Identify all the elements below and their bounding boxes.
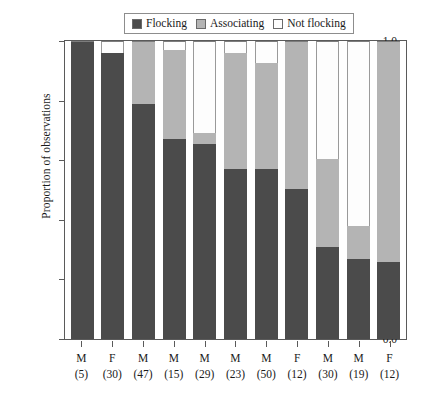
x-axis-label: M(5): [66, 350, 97, 382]
stacked-bar[interactable]: [255, 41, 278, 339]
bar-segment-flocking: [377, 262, 400, 339]
bar-segment-flocking: [255, 169, 278, 339]
bar-segment-associating: [193, 133, 216, 143]
x-label-count: (50): [251, 366, 282, 382]
x-label-sex: M: [313, 350, 344, 366]
stacked-bar[interactable]: [163, 41, 186, 339]
bar-segment-not-flocking: [347, 41, 370, 226]
bar-segment-not-flocking: [163, 41, 186, 50]
x-label-count: (30): [97, 366, 128, 382]
x-axis-label: F(12): [282, 350, 313, 382]
x-tick-mark: [143, 341, 144, 347]
legend-swatch-associating: [196, 19, 206, 29]
bar-slot: [251, 41, 282, 339]
x-axis-label: M(50): [251, 350, 282, 382]
x-label-sex: F: [282, 350, 313, 366]
bar-slot: [343, 41, 374, 339]
bar-segment-associating: [316, 159, 339, 247]
bar-slot: [128, 41, 159, 339]
x-label-sex: M: [220, 350, 251, 366]
bar-slot: [312, 41, 343, 339]
bar-segment-flocking: [132, 104, 155, 339]
x-tick-mark: [359, 341, 360, 347]
stacked-bar[interactable]: [377, 41, 400, 339]
x-tick-mark: [174, 341, 175, 347]
legend-item-associating: Associating: [196, 18, 264, 30]
x-tick-mark: [205, 341, 206, 347]
x-tick-mark: [328, 341, 329, 347]
x-label-sex: F: [374, 350, 405, 366]
bar-slot: [159, 41, 190, 339]
bar-slot: [281, 41, 312, 339]
x-label-count: (12): [282, 366, 313, 382]
bar-series-container: [65, 41, 406, 339]
x-tick-slot: [189, 341, 220, 347]
plot-area: 1.00.80.60.40.20.0: [64, 40, 407, 340]
x-tick-mark: [112, 341, 113, 347]
stacked-bar[interactable]: [285, 41, 308, 339]
stacked-bar[interactable]: [193, 41, 216, 339]
x-tick-slot: [282, 341, 313, 347]
stacked-bar[interactable]: [347, 41, 370, 339]
stacked-bar[interactable]: [224, 41, 247, 339]
x-label-sex: M: [128, 350, 159, 366]
bar-segment-not-flocking: [224, 41, 247, 53]
x-tick-slot: [313, 341, 344, 347]
x-label-count: (30): [313, 366, 344, 382]
bar-segment-associating: [285, 41, 308, 189]
x-axis-label: M(29): [189, 350, 220, 382]
legend-swatch-flocking: [132, 19, 142, 29]
stacked-bar[interactable]: [71, 41, 94, 339]
legend-swatch-not-flocking: [273, 19, 283, 29]
x-axis-ticks: [64, 341, 407, 347]
bar-segment-flocking: [224, 169, 247, 339]
legend-label-associating: Associating: [210, 18, 264, 30]
stacked-bar[interactable]: [132, 41, 155, 339]
x-axis-label: F(12): [374, 350, 405, 382]
x-label-count: (29): [189, 366, 220, 382]
x-label-sex: M: [251, 350, 282, 366]
bar-segment-associating: [255, 63, 278, 169]
bar-segment-flocking: [347, 259, 370, 339]
x-label-count: (23): [220, 366, 251, 382]
bar-segment-flocking: [163, 139, 186, 339]
x-label-count: (5): [66, 366, 97, 382]
x-tick-slot: [374, 341, 405, 347]
x-tick-slot: [220, 341, 251, 347]
bar-segment-flocking: [193, 144, 216, 339]
bar-slot: [373, 41, 404, 339]
x-tick-slot: [128, 341, 159, 347]
bar-slot: [98, 41, 129, 339]
stacked-bar-chart-figure: Flocking Associating Not flocking Propor…: [0, 0, 425, 394]
bar-segment-associating: [224, 53, 247, 169]
x-tick-slot: [251, 341, 282, 347]
legend-item-not-flocking: Not flocking: [273, 18, 345, 30]
x-axis-label: M(47): [128, 350, 159, 382]
legend-label-flocking: Flocking: [146, 18, 187, 30]
legend-item-flocking: Flocking: [132, 18, 187, 30]
bar-segment-not-flocking: [193, 41, 216, 133]
stacked-bar[interactable]: [101, 41, 124, 339]
bar-slot: [67, 41, 98, 339]
x-label-sex: M: [343, 350, 374, 366]
bar-segment-associating: [347, 226, 370, 259]
x-label-sex: F: [97, 350, 128, 366]
x-label-sex: M: [158, 350, 189, 366]
bar-segment-flocking: [101, 53, 124, 339]
x-tick-slot: [158, 341, 189, 347]
stacked-bar[interactable]: [316, 41, 339, 339]
x-label-count: (19): [343, 366, 374, 382]
y-axis-title: Proportion of observations: [40, 31, 52, 281]
legend-label-not-flocking: Not flocking: [287, 18, 345, 30]
x-label-count: (12): [374, 366, 405, 382]
x-tick-mark: [266, 341, 267, 347]
bar-segment-flocking: [285, 189, 308, 339]
x-axis-label: M(15): [158, 350, 189, 382]
bar-slot: [220, 41, 251, 339]
bar-segment-associating: [163, 50, 186, 139]
x-axis-label: M(30): [313, 350, 344, 382]
x-tick-slot: [343, 341, 374, 347]
x-axis-label: M(23): [220, 350, 251, 382]
x-label-sex: M: [189, 350, 220, 366]
bar-segment-not-flocking: [316, 41, 339, 159]
